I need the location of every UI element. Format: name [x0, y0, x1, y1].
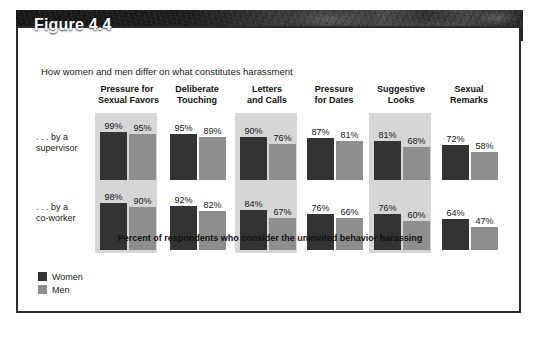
- row-label-line2: supervisor: [36, 143, 78, 154]
- bar-value-label: 68%: [403, 136, 430, 146]
- legend: Women Men: [38, 270, 83, 296]
- bar-value-label: 76%: [374, 203, 401, 213]
- bar-men-supervisor-col3: 76%: [269, 118, 296, 180]
- bar-women-supervisor-col1: 99%: [100, 118, 127, 180]
- column-header-line2: Remarks: [440, 95, 498, 106]
- figure-container: Figure 4.4 How women and men differ on w…: [0, 0, 540, 338]
- bar-value-label: 92%: [170, 195, 197, 205]
- bar-value-label: 90%: [240, 126, 267, 136]
- bar-rect-women: [240, 210, 267, 250]
- bar-rect-men: [199, 211, 226, 250]
- bar-rect-men: [403, 147, 430, 180]
- bar-women-supervisor-col2: 95%: [170, 118, 197, 180]
- bar-group-supervisor-col2: 95%89%: [168, 118, 226, 180]
- bar-value-label: 81%: [336, 130, 363, 140]
- bar-rect-women: [240, 137, 267, 180]
- bar-rect-men: [129, 134, 156, 180]
- bar-value-label: 89%: [199, 126, 226, 136]
- bar-value-label: 47%: [471, 216, 498, 226]
- bar-men-supervisor-col1: 95%: [129, 118, 156, 180]
- bar-men-supervisor-col5: 68%: [403, 118, 430, 180]
- bar-value-label: 95%: [170, 123, 197, 133]
- bar-group-supervisor-col5: 81%68%: [372, 118, 430, 180]
- column-header-2: DeliberateTouching: [168, 84, 226, 106]
- bar-group-supervisor-col3: 90%76%: [238, 118, 296, 180]
- column-header-6: SexualRemarks: [440, 84, 498, 106]
- bar-rect-women: [100, 132, 127, 180]
- bar-value-label: 99%: [100, 121, 127, 131]
- bar-value-label: 87%: [307, 127, 334, 137]
- bar-rect-women: [374, 141, 401, 180]
- bar-men-supervisor-col6: 58%: [471, 118, 498, 180]
- bar-value-label: 60%: [403, 210, 430, 220]
- bar-group-supervisor-col6: 72%58%: [440, 118, 498, 180]
- column-header-line2: Sexual Favors: [98, 95, 156, 106]
- column-header-line1: Letters: [238, 84, 296, 95]
- legend-item-men: Men: [38, 283, 83, 296]
- column-header-5: SuggestiveLooks: [372, 84, 430, 106]
- column-header-line2: and Calls: [238, 95, 296, 106]
- column-header-line1: Pressure: [305, 84, 363, 95]
- column-header-line1: Deliberate: [168, 84, 226, 95]
- bar-value-label: 58%: [471, 141, 498, 151]
- figure-title: Figure 4.4: [34, 16, 112, 34]
- bar-rect-men: [199, 137, 226, 180]
- bar-value-label: 76%: [307, 203, 334, 213]
- column-header-4: Pressurefor Dates: [305, 84, 363, 106]
- row-label-2: . . . by aco-worker: [36, 202, 76, 224]
- legend-label-men: Men: [52, 285, 70, 295]
- legend-swatch-women-icon: [38, 272, 47, 281]
- bar-rect-men: [129, 207, 156, 250]
- bar-value-label: 67%: [269, 207, 296, 217]
- column-header-3: Lettersand Calls: [238, 84, 296, 106]
- bar-rect-men: [336, 141, 363, 180]
- row-label-line1: . . . by a: [36, 202, 76, 213]
- column-header-line2: Touching: [168, 95, 226, 106]
- bar-value-label: 76%: [269, 133, 296, 143]
- legend-swatch-men-icon: [38, 285, 47, 294]
- bar-value-label: 84%: [240, 199, 267, 209]
- row-label-line2: co-worker: [36, 213, 76, 224]
- bar-men-supervisor-col2: 89%: [199, 118, 226, 180]
- column-header-1: Pressure forSexual Favors: [98, 84, 156, 106]
- bar-women-supervisor-col3: 90%: [240, 118, 267, 180]
- bar-rect-women: [307, 214, 334, 250]
- bar-men-supervisor-col4: 81%: [336, 118, 363, 180]
- bar-rect-women: [170, 206, 197, 250]
- legend-label-women: Women: [52, 272, 83, 282]
- column-header-line2: Looks: [372, 95, 430, 106]
- bar-rect-women: [374, 214, 401, 250]
- bar-value-label: 72%: [442, 134, 469, 144]
- bar-women-supervisor-col4: 87%: [307, 118, 334, 180]
- legend-item-women: Women: [38, 270, 83, 283]
- bar-women-supervisor-col6: 72%: [442, 118, 469, 180]
- bar-value-label: 90%: [129, 196, 156, 206]
- column-header-line1: Sexual: [440, 84, 498, 95]
- figure-subtitle: How women and men differ on what constit…: [41, 66, 293, 77]
- baseline-caption: Percent of respondents who consider the …: [0, 233, 540, 243]
- column-header-line1: Pressure for: [98, 84, 156, 95]
- column-header-line2: for Dates: [305, 95, 363, 106]
- bar-rect-women: [442, 145, 469, 180]
- bar-rect-men: [269, 144, 296, 180]
- column-header-line1: Suggestive: [372, 84, 430, 95]
- bar-value-label: 81%: [374, 130, 401, 140]
- bar-value-label: 66%: [336, 207, 363, 217]
- bar-value-label: 82%: [199, 200, 226, 210]
- bar-rect-women: [170, 134, 197, 180]
- bar-value-label: 95%: [129, 123, 156, 133]
- row-label-1: . . . by asupervisor: [36, 132, 78, 154]
- bar-rect-men: [471, 152, 498, 180]
- bar-women-supervisor-col5: 81%: [374, 118, 401, 180]
- bar-rect-women: [307, 138, 334, 180]
- bar-value-label: 64%: [442, 208, 469, 218]
- bar-group-supervisor-col4: 87%81%: [305, 118, 363, 180]
- bar-value-label: 98%: [100, 192, 127, 202]
- row-label-line1: . . . by a: [36, 132, 78, 143]
- bar-group-supervisor-col1: 99%95%: [98, 118, 156, 180]
